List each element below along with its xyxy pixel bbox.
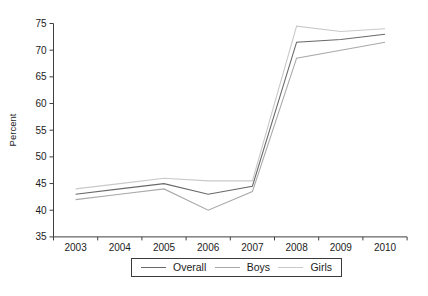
x-tick-label: 2007 xyxy=(241,242,264,253)
y-tick-label: 70 xyxy=(35,45,47,56)
x-tick-label: 2010 xyxy=(374,242,397,253)
legend-line-boys-icon xyxy=(215,267,240,269)
line-chart-figure: 3540455055606570752003200420052006200720… xyxy=(0,0,428,296)
chart-plot-area: 3540455055606570752003200420052006200720… xyxy=(0,0,428,296)
series-line-boys xyxy=(76,42,385,210)
series-line-overall xyxy=(76,34,385,194)
x-tick-label: 2004 xyxy=(109,242,132,253)
legend-box: Overall Boys Girls xyxy=(131,258,342,277)
legend-label-girls: Girls xyxy=(310,262,332,273)
x-tick-label: 2009 xyxy=(330,242,353,253)
legend-entry-girls: Girls xyxy=(278,262,332,273)
x-tick-label: 2005 xyxy=(153,242,176,253)
y-tick-label: 75 xyxy=(35,18,47,29)
legend-line-girls-icon xyxy=(278,267,303,269)
y-tick-label: 65 xyxy=(35,71,47,82)
x-tick-label: 2003 xyxy=(64,242,87,253)
x-tick-label: 2008 xyxy=(285,242,308,253)
y-tick-label: 40 xyxy=(35,205,47,216)
y-axis-title: Percent xyxy=(7,113,18,146)
legend-label-boys: Boys xyxy=(247,262,270,273)
legend-line-overall-icon xyxy=(141,267,166,269)
y-tick-label: 60 xyxy=(35,98,47,109)
y-tick-label: 50 xyxy=(35,151,47,162)
y-tick-label: 35 xyxy=(35,231,47,242)
y-tick-label: 55 xyxy=(35,125,47,136)
x-tick-label: 2006 xyxy=(197,242,220,253)
legend-entry-boys: Boys xyxy=(215,262,270,273)
legend-label-overall: Overall xyxy=(173,262,206,273)
legend-entry-overall: Overall xyxy=(141,262,206,273)
y-tick-label: 45 xyxy=(35,178,47,189)
